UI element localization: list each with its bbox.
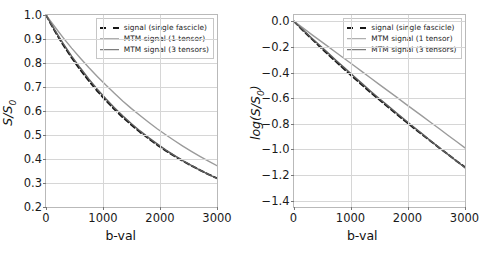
gridline-vertical xyxy=(408,15,409,207)
y-tick-label: −1.4 xyxy=(262,194,294,208)
y-tick-label: 1.0 xyxy=(24,8,46,22)
x-tick-label: 0 xyxy=(290,207,297,225)
y-tick-label: 0.0 xyxy=(271,14,293,28)
x-tick-label: 1000 xyxy=(336,207,365,225)
y-tick-label: 0.6 xyxy=(24,104,46,118)
legend-right: signal (single fascicle)MTM signal (1 te… xyxy=(343,18,461,59)
y-tick-label: −0.2 xyxy=(262,40,294,54)
gridline-vertical xyxy=(351,15,352,207)
x-tick-label: 0 xyxy=(42,207,49,225)
gridline-horizontal xyxy=(294,21,465,22)
x-axis-label-right: b-val xyxy=(242,228,483,243)
y-tick-label: −0.8 xyxy=(262,117,294,131)
y-tick-label: 0.7 xyxy=(24,80,46,94)
y-tick-label: 0.8 xyxy=(24,56,46,70)
legend-entry-right-2: MTM signal (3 tensors) xyxy=(347,44,456,55)
y-tick-label: −1.2 xyxy=(262,168,294,182)
x-tick-label: 2000 xyxy=(145,207,174,225)
panel-left-signal-ratio: S/S0 signal (single fascicle)MTM signal … xyxy=(0,0,242,258)
legend-entry-right-1: MTM signal (1 tensor) xyxy=(347,33,456,44)
gridline-horizontal xyxy=(294,124,465,125)
legend-label: MTM signal (1 tensor) xyxy=(371,34,452,43)
gridline-horizontal xyxy=(46,159,217,160)
y-axis-label-left: S/S0 xyxy=(0,93,18,133)
gridline-horizontal xyxy=(294,149,465,150)
legend-label: signal (single fascicle) xyxy=(124,23,207,32)
y-tick-label: 0.5 xyxy=(24,128,46,142)
gridline-horizontal xyxy=(294,175,465,176)
legend-entry-right-0: signal (single fascicle) xyxy=(347,22,456,33)
gridline-horizontal xyxy=(46,39,217,40)
gridline-vertical xyxy=(160,15,161,207)
figure: S/S0 signal (single fascicle)MTM signal … xyxy=(0,0,483,258)
x-tick-label: 2000 xyxy=(393,207,422,225)
plot-area-right: signal (single fascicle)MTM signal (1 te… xyxy=(293,14,466,208)
x-tick-label: 3000 xyxy=(202,207,231,225)
y-tick-label: −1.0 xyxy=(262,142,294,156)
x-tick-label: 1000 xyxy=(88,207,117,225)
gridline-horizontal xyxy=(294,98,465,99)
y-tick-label: 0.9 xyxy=(24,32,46,46)
legend-label: MTM signal (3 tensors) xyxy=(124,45,209,54)
legend-label: signal (single fascicle) xyxy=(371,23,454,32)
gridline-vertical xyxy=(103,15,104,207)
panel-right-log-signal-ratio: log(S/S0) signal (single fascicle)MTM si… xyxy=(242,0,483,258)
plot-area-left: signal (single fascicle)MTM signal (1 te… xyxy=(45,14,218,208)
gridline-horizontal xyxy=(46,87,217,88)
gridline-horizontal xyxy=(46,135,217,136)
x-axis-label-left: b-val xyxy=(0,228,242,243)
gridline-horizontal xyxy=(46,183,217,184)
y-tick-label: −0.6 xyxy=(262,91,294,105)
gridline-horizontal xyxy=(294,47,465,48)
gridline-horizontal xyxy=(294,201,465,202)
y-tick-label: 0.4 xyxy=(24,152,46,166)
gridline-horizontal xyxy=(46,63,217,64)
y-tick-label: −0.4 xyxy=(262,66,294,80)
legend-entry-left-0: signal (single fascicle) xyxy=(100,22,209,33)
gridline-horizontal xyxy=(46,111,217,112)
legend-entry-left-2: MTM signal (3 tensors) xyxy=(100,44,209,55)
x-tick-label: 3000 xyxy=(450,207,479,225)
y-tick-label: 0.3 xyxy=(24,176,46,190)
gridline-horizontal xyxy=(294,73,465,74)
